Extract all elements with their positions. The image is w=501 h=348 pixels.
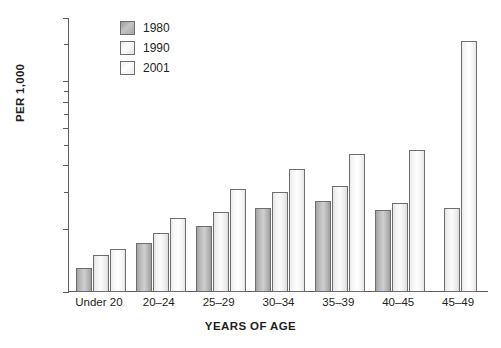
bar-1990-20–24 (153, 233, 169, 292)
bar-1980-30–34 (255, 208, 271, 292)
category-label-25–29: 25–29 (203, 296, 235, 308)
bar-1990-45–49 (444, 208, 460, 292)
bar-1990-Under-20 (93, 255, 109, 292)
bar-1990-35–39 (332, 186, 348, 292)
bar-2001-25–29 (230, 189, 246, 292)
bar-1990-30–34 (272, 192, 288, 292)
bar-1980-40–45 (375, 210, 391, 292)
category-label-45–49: 45–49 (442, 296, 474, 308)
y-tick-minor-90 (64, 91, 68, 92)
bar-group (249, 18, 309, 292)
bar-1980-25–29 (196, 226, 212, 292)
legend-item-1980: 1980 (120, 18, 170, 38)
y-axis-title: PER 1,000 (14, 2, 26, 122)
legend-item-1990: 1990 (120, 38, 170, 58)
bar-1990-25–29 (213, 212, 229, 292)
bar-1980-Under-20 (76, 268, 92, 292)
category-label-30–34: 30–34 (263, 296, 295, 308)
bar-group (428, 18, 488, 292)
bar-2001-Under-20 (110, 249, 126, 292)
bar-2001-20–24 (170, 218, 186, 292)
category-label-Under-20: Under 20 (75, 296, 122, 308)
legend-label-2001: 2001 (143, 61, 170, 75)
x-axis-title: YEARS OF AGE (0, 320, 501, 332)
legend-swatch-2001 (120, 61, 135, 75)
bar-2001-35–39 (349, 154, 365, 292)
category-label-40–45: 40–45 (382, 296, 414, 308)
y-tick-10 (63, 292, 69, 293)
bar-2001-40–45 (409, 150, 425, 292)
legend-swatch-1980 (120, 21, 135, 35)
legend-label-1980: 1980 (143, 21, 170, 35)
legend-item-2001: 2001 (120, 58, 170, 78)
bar-2001-30–34 (289, 169, 305, 292)
y-tick-minor-50 (64, 145, 68, 146)
log-bar-chart: PER 1,000 1020406080100200 Under 2020–24… (0, 0, 501, 348)
y-tick-minor-150 (64, 44, 68, 45)
bar-group (189, 18, 249, 292)
bar-1990-40–45 (392, 203, 408, 292)
chart-legend: 198019902001 (120, 18, 170, 78)
bar-1980-20–24 (136, 243, 152, 292)
bar-group (308, 18, 368, 292)
category-label-35–39: 35–39 (322, 296, 354, 308)
legend-swatch-1990 (120, 41, 135, 55)
y-tick-minor-70 (64, 114, 68, 115)
legend-label-1990: 1990 (143, 41, 170, 55)
y-tick-minor-30 (64, 192, 68, 193)
category-label-20–24: 20–24 (143, 296, 175, 308)
bar-group (368, 18, 428, 292)
bar-1980-35–39 (315, 201, 331, 292)
bar-2001-45–49 (461, 41, 477, 292)
